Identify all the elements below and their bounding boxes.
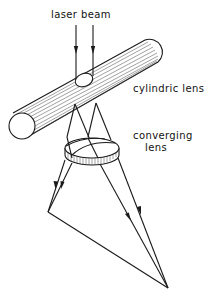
arrow-down-icon [91, 46, 95, 54]
laser-beam-label: laser beam [51, 9, 111, 20]
arrow-down-icon [61, 181, 65, 189]
converging-lens-label-line1: converging [133, 130, 193, 141]
output-rays [48, 158, 168, 288]
cylindric-lens-label: cylindric lens [133, 83, 204, 94]
converging-lens [65, 137, 119, 165]
fan-rays-upper [67, 103, 111, 140]
laser-beam-rays [74, 25, 95, 79]
arrow-down-icon [74, 46, 78, 54]
converging-lens-label-line2: lens [145, 142, 167, 153]
optical-diagram: laser beam cylindric lens [0, 0, 211, 299]
arrow-down-icon [125, 213, 131, 222]
